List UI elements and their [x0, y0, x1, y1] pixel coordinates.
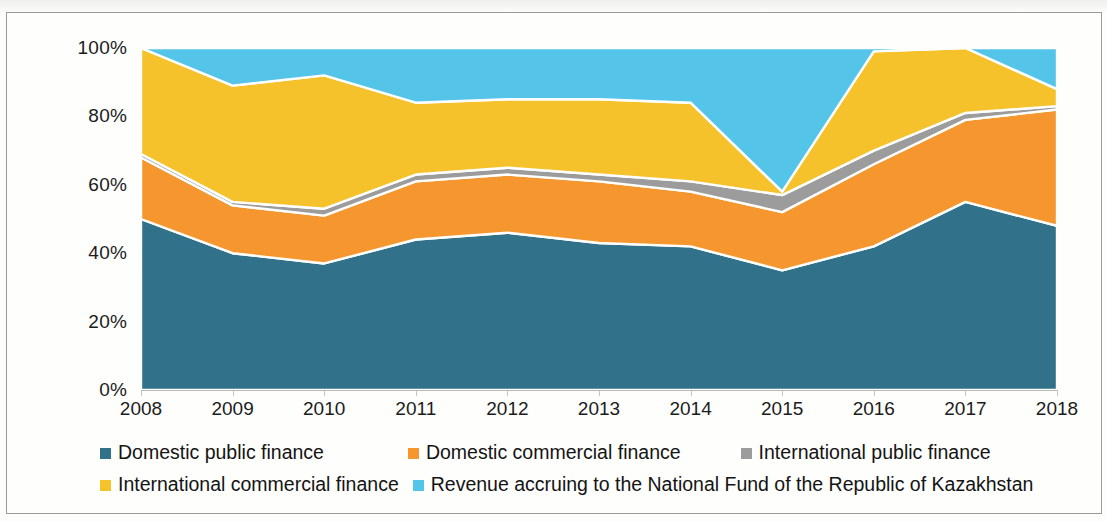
legend-item-label: International commercial finance: [118, 475, 399, 495]
legend-item-label: Domestic commercial finance: [426, 443, 681, 463]
legend-swatch-icon: [100, 480, 111, 491]
legend-swatch-icon: [408, 448, 419, 459]
legend-swatch-icon: [100, 448, 111, 459]
legend-item-international-commercial-finance[interactable]: International commercial finance: [100, 475, 399, 495]
legend-item-domestic-public-finance[interactable]: Domestic public finance: [100, 443, 324, 463]
legend-item-domestic-commercial-finance[interactable]: Domestic commercial finance: [408, 443, 681, 463]
y-axis-tick: 80%: [88, 105, 127, 127]
legend-item-label: Domestic public finance: [118, 443, 324, 463]
x-axis-tick-mark: [507, 390, 508, 396]
legend-item-national-fund-revenue[interactable]: Revenue accruing to the National Fund of…: [413, 475, 1034, 495]
legend-row-1: Domestic public finance Domestic commerc…: [100, 437, 1100, 469]
x-axis-tick-mark: [782, 390, 783, 396]
legend-swatch-icon: [413, 480, 424, 491]
y-axis-tick: 100%: [78, 37, 127, 59]
x-axis-tick: 2012: [486, 398, 528, 420]
x-axis-tick: 2009: [211, 398, 253, 420]
x-axis-tick: 2017: [944, 398, 986, 420]
x-axis-tick: 2010: [303, 398, 345, 420]
x-axis-tick: 2011: [395, 398, 436, 420]
legend-item-international-public-finance[interactable]: International public finance: [741, 443, 991, 463]
x-axis-tick-mark: [1057, 390, 1058, 396]
x-axis-tick-mark: [233, 390, 234, 396]
x-axis-tick: 2016: [853, 398, 895, 420]
x-axis-tick-mark: [965, 390, 966, 396]
y-axis-tick: 40%: [88, 242, 127, 264]
area-series-group: [141, 48, 1057, 390]
x-axis-tick-mark: [324, 390, 325, 396]
stacked-area-chart: 100% 80% 60% 40% 20% 0% 2008200920102011…: [0, 0, 1107, 522]
x-axis-tick-mark: [691, 390, 692, 396]
plot-area: [141, 48, 1057, 390]
x-axis-tick-mark: [141, 390, 142, 396]
x-axis-tick-mark: [599, 390, 600, 396]
legend-swatch-icon: [741, 448, 752, 459]
x-axis-tick: 2015: [761, 398, 803, 420]
y-axis-tick: 60%: [88, 174, 127, 196]
x-axis-tick: 2018: [1036, 398, 1078, 420]
y-axis-tick: 20%: [88, 311, 127, 333]
x-axis: 2008200920102011201220132014201520162017…: [0, 398, 1107, 430]
legend-item-label: Revenue accruing to the National Fund of…: [431, 475, 1034, 495]
x-axis-tick: 2008: [120, 398, 162, 420]
x-axis-tick-mark: [874, 390, 875, 396]
chart-legend: Domestic public finance Domestic commerc…: [100, 437, 1100, 501]
legend-row-2: International commercial finance Revenue…: [100, 469, 1100, 501]
x-axis-tick-mark: [416, 390, 417, 396]
legend-item-label: International public finance: [759, 443, 991, 463]
x-axis-tick: 2013: [578, 398, 620, 420]
y-axis: 100% 80% 60% 40% 20% 0%: [55, 48, 135, 390]
x-axis-tick: 2014: [669, 398, 711, 420]
